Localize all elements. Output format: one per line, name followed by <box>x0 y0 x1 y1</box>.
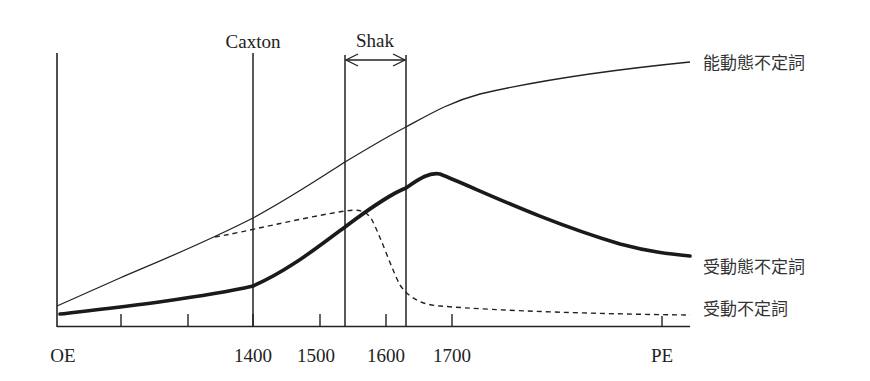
series-label-active-infinitive: 能動態不定詞 <box>703 53 805 73</box>
series-label-passive-infinitive: 受動不定詞 <box>703 299 788 319</box>
x-tick-label-pe: PE <box>651 345 673 366</box>
series-label-passive-voice-infinitive: 受動態不定詞 <box>703 257 805 277</box>
shak-label: Shak <box>356 30 395 51</box>
chart: OE 1400 1500 1600 1700 PE Caxton Shak 能動… <box>0 0 870 381</box>
series-active-infinitive-line <box>57 62 690 306</box>
x-tick-label-1500: 1500 <box>297 345 335 366</box>
shak-range-arrow-icon <box>346 54 405 66</box>
x-tick-label-1700: 1700 <box>433 345 471 366</box>
caxton-label: Caxton <box>226 31 281 52</box>
series-passive-infinitive-line <box>215 210 690 315</box>
x-tick-label-1400: 1400 <box>234 345 272 366</box>
x-tick-label-oe: OE <box>50 345 75 366</box>
x-tick-label-1600: 1600 <box>367 345 405 366</box>
series-passive-voice-infinitive-line <box>60 174 690 314</box>
x-ticks <box>121 314 662 326</box>
